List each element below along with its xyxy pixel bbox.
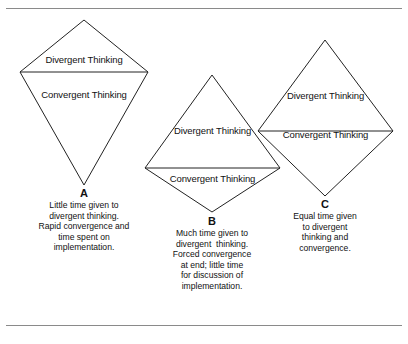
- caption-b-line-5: for discussion of: [148, 270, 276, 281]
- caption-b-line-4: at end; little time: [148, 260, 276, 271]
- caption-c-line-1: Equal time given: [264, 211, 386, 222]
- caption-b-line-1: Much time given to: [148, 228, 276, 239]
- caption-a-line-3: Rapid convergence and: [18, 221, 150, 232]
- shape-a-kite: [20, 20, 148, 185]
- caption-c: C Equal time given to divergent thinking…: [264, 197, 386, 253]
- caption-b: B Much time given to divergent thinking.…: [148, 214, 276, 292]
- shape-c-convergent-label: Convergent Thinking: [258, 129, 393, 140]
- caption-a-line-2: divergent thinking.: [18, 211, 150, 222]
- caption-c-line-2: to divergent: [264, 222, 386, 233]
- caption-a-line-4: time spent on: [18, 232, 150, 243]
- diagram-shapes: [0, 0, 408, 344]
- caption-a-line-1: Little time given to: [18, 200, 150, 211]
- caption-b-line-6: implementation.: [148, 281, 276, 292]
- shape-a-convergent-label: Convergent Thinking: [20, 89, 148, 100]
- caption-b-line-3: Forced convergence: [148, 249, 276, 260]
- caption-a: A Little time given to divergent thinkin…: [18, 186, 150, 253]
- caption-b-letter: B: [148, 214, 276, 228]
- caption-c-line-4: convergence.: [264, 243, 386, 254]
- shape-a-divergent-label: Divergent Thinking: [20, 54, 148, 65]
- caption-a-letter: A: [18, 186, 150, 200]
- caption-c-letter: C: [264, 197, 386, 211]
- shape-b-convergent-label: Convergent Thinking: [145, 173, 280, 184]
- caption-c-line-3: thinking and: [264, 232, 386, 243]
- caption-a-line-5: implementation.: [18, 242, 150, 253]
- shape-c-divergent-label: Divergent Thinking: [258, 90, 393, 101]
- diagram-page: Divergent Thinking Convergent Thinking D…: [0, 0, 408, 344]
- caption-b-line-2: divergent thinking.: [148, 239, 276, 250]
